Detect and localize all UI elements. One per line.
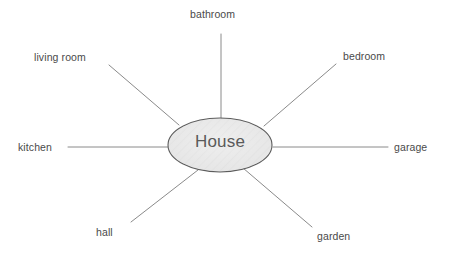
branch-label-hall[interactable]: hall xyxy=(96,226,113,239)
branch-label-kitchen[interactable]: kitchen xyxy=(18,141,52,154)
spoke-line-bedroom xyxy=(264,64,336,126)
branch-label-garage[interactable]: garage xyxy=(394,141,427,154)
spoke-line-garden xyxy=(243,168,312,227)
spoke-line-living-room xyxy=(109,65,179,125)
branch-label-garden[interactable]: garden xyxy=(317,230,350,243)
branch-label-bathroom[interactable]: bathroom xyxy=(190,8,235,21)
central-node-label: House xyxy=(168,132,272,152)
diagram-canvas: House bathroombedroomgaragegardenhallkit… xyxy=(0,0,454,260)
branch-label-bedroom[interactable]: bedroom xyxy=(343,50,385,63)
branch-label-living-room[interactable]: living room xyxy=(34,51,86,64)
mind-map-graphics xyxy=(0,0,454,260)
spoke-line-hall xyxy=(131,170,198,222)
